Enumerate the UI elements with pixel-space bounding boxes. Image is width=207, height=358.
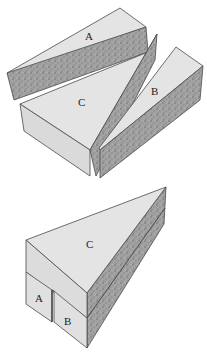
bottom-diagram: C A B [26, 187, 166, 348]
label-c-top: C [78, 96, 85, 108]
dissection-illustration: A C B C A B [0, 0, 207, 358]
label-a-top: A [85, 30, 93, 42]
label-c-bottom: C [86, 238, 93, 250]
label-b-top: B [151, 85, 158, 97]
label-a-bottom: A [35, 292, 43, 304]
top-diagram: A C B [7, 8, 203, 178]
label-b-bottom: B [64, 315, 71, 327]
